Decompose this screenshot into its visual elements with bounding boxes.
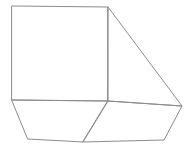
square-face [12,6,108,101]
figure-canvas [0,0,189,148]
bottom-right-quad-face [83,101,182,142]
triangle-face [108,7,182,106]
geometry-figure [0,0,189,148]
bottom-left-quad-face [12,100,108,142]
